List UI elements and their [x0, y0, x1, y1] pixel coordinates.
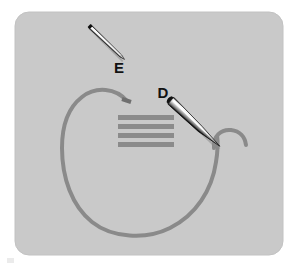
scan-artifact [7, 258, 14, 263]
stitch-bar [118, 115, 174, 120]
label-d: D [158, 84, 169, 101]
thread-free-end [122, 99, 131, 102]
stitch-bar [118, 142, 174, 147]
label-e: E [114, 59, 124, 76]
figure-root: E D [0, 0, 296, 270]
stitch-bar [118, 133, 174, 138]
diagram-canvas: E D [0, 0, 296, 270]
stitch-bar [118, 124, 174, 129]
